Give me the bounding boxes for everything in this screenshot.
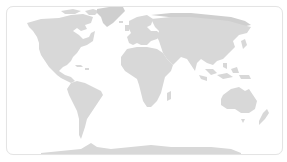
map-card xyxy=(6,6,283,155)
region-greenland[interactable] xyxy=(97,7,125,27)
region-australia[interactable] xyxy=(221,87,269,125)
region-antarctica[interactable] xyxy=(41,143,241,155)
region-south-america[interactable] xyxy=(67,81,103,139)
region-north-america[interactable] xyxy=(27,9,99,83)
world-map[interactable] xyxy=(6,6,283,155)
